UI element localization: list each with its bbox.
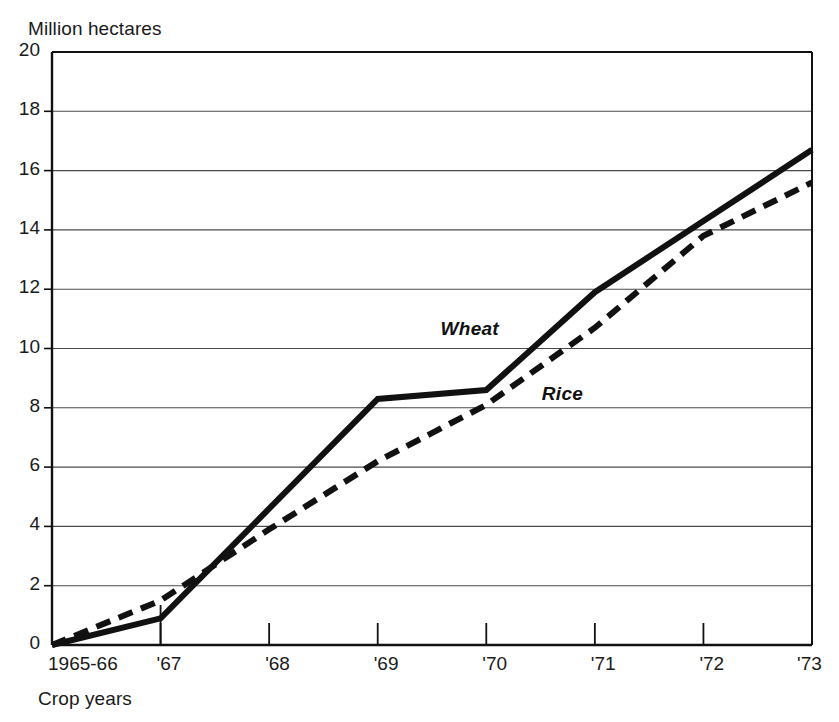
x-axis-tick-label: '71	[591, 653, 616, 675]
y-axis-tick-label: 14	[0, 217, 40, 239]
y-axis-tick-label: 12	[0, 276, 40, 298]
x-axis-tick-label: '67	[157, 653, 182, 675]
y-axis-tick-label: 2	[0, 573, 40, 595]
series-label-rice: Rice	[542, 383, 583, 405]
line-chart: Million hectares 02468101214161820 1965-…	[0, 0, 839, 722]
data-series	[52, 150, 812, 645]
gridlines	[44, 111, 812, 585]
y-axis-tick-label: 8	[0, 395, 40, 417]
x-axis-tick-label: 1965-66	[48, 653, 118, 675]
y-axis-tick-label: 20	[0, 39, 40, 61]
x-axis-tick-label: '69	[374, 653, 399, 675]
x-axis-tick-label: '70	[482, 653, 507, 675]
plot-area	[0, 0, 839, 722]
y-axis-tick-label: 16	[0, 158, 40, 180]
x-axis-tick-label: '73	[797, 653, 822, 675]
x-axis-tick-label: '68	[265, 653, 290, 675]
x-axis-ticks	[161, 605, 704, 645]
y-axis-tick-label: 18	[0, 98, 40, 120]
y-axis-tick-label: 6	[0, 454, 40, 476]
series-label-wheat: Wheat	[441, 318, 500, 340]
y-axis-tick-label: 0	[0, 632, 40, 654]
series-line-rice	[52, 182, 812, 645]
x-axis-title: Crop years	[38, 688, 132, 710]
y-axis-tick-label: 4	[0, 513, 40, 535]
x-axis-tick-label: '72	[699, 653, 724, 675]
y-axis-tick-label: 10	[0, 336, 40, 358]
series-line-wheat	[52, 150, 812, 645]
